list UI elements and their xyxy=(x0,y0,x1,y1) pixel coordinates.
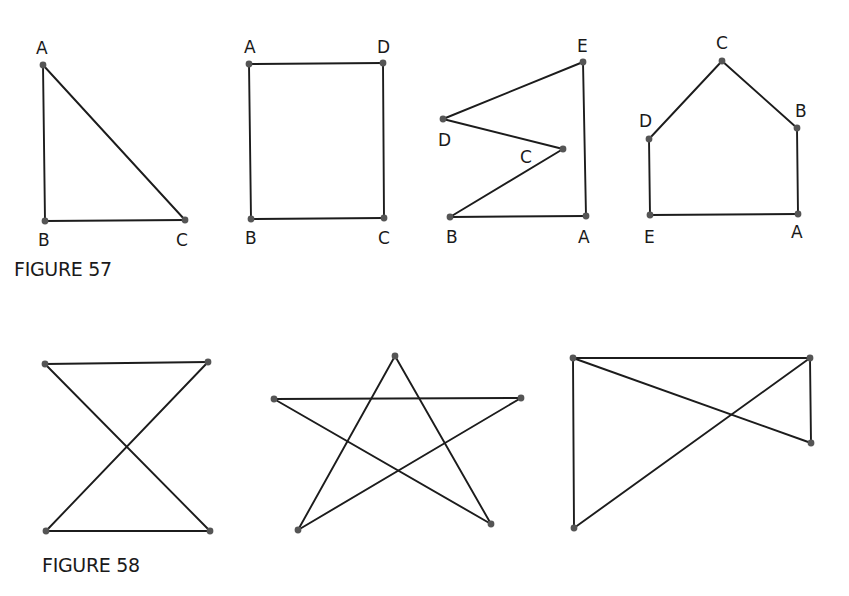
vertex-C xyxy=(182,217,189,224)
vertex-C xyxy=(719,58,726,65)
vertex-label-D: D xyxy=(438,130,451,150)
figure-figure-57: ABCADBCEDCBACBDEAFIGURE 57 xyxy=(14,33,807,280)
vertex-top xyxy=(392,353,399,360)
edge-top-bl xyxy=(298,356,395,530)
vertex-p3 xyxy=(43,528,50,535)
vertex-bl xyxy=(571,525,578,532)
edge-tr-bl xyxy=(574,358,810,528)
edge-D-C xyxy=(443,119,563,149)
vertex-label-C: C xyxy=(520,147,532,167)
shape-bowtie-quad xyxy=(570,355,815,532)
vertex-label-C: C xyxy=(378,228,390,248)
vertex-label-C: C xyxy=(176,230,188,250)
vertex-p2 xyxy=(205,359,212,366)
shape-zigzag-pentagon: EDCBA xyxy=(438,36,590,247)
vertex-label-D: D xyxy=(377,37,390,57)
vertex-label-A: A xyxy=(578,227,590,247)
vertex-bl xyxy=(295,527,302,534)
figure-caption: FIGURE 57 xyxy=(14,258,112,280)
vertex-tl xyxy=(570,355,577,362)
shape-hourglass xyxy=(42,359,214,535)
edge-C-B xyxy=(251,218,384,219)
vertex-r xyxy=(808,440,815,447)
edge-D-C xyxy=(649,61,722,139)
vertex-D xyxy=(380,60,387,67)
vertex-label-A: A xyxy=(791,222,803,242)
figure-caption: FIGURE 58 xyxy=(42,554,140,576)
edge-A-D xyxy=(249,63,383,64)
vertex-B xyxy=(794,125,801,132)
vertex-label-A: A xyxy=(36,38,48,58)
vertex-label-A: A xyxy=(244,37,256,57)
edge-C-B xyxy=(450,149,563,217)
edge-B-A xyxy=(249,64,251,219)
edge-A-B xyxy=(43,65,45,221)
vertex-label-E: E xyxy=(644,227,655,247)
vertex-label-D: D xyxy=(639,111,652,131)
figure-figure-58: FIGURE 58 xyxy=(42,353,815,576)
vertex-label-E: E xyxy=(577,36,588,56)
edge-B-C xyxy=(45,220,185,221)
vertex-label-B: B xyxy=(446,227,458,247)
vertex-D xyxy=(440,116,447,123)
edge-bl-right xyxy=(298,398,521,530)
vertex-p1 xyxy=(42,361,49,368)
edge-E-D xyxy=(649,139,650,215)
vertex-right xyxy=(518,395,525,402)
edge-left-br xyxy=(274,399,491,524)
shape-star xyxy=(271,353,525,534)
vertex-label-B: B xyxy=(795,101,807,121)
edge-E-D xyxy=(443,62,583,119)
edge-tl-r xyxy=(573,358,811,443)
vertex-tr xyxy=(807,355,814,362)
edge-r-tr xyxy=(810,358,811,443)
edge-D-C xyxy=(383,63,384,218)
vertex-A xyxy=(40,62,47,69)
edge-right-left xyxy=(274,398,521,399)
vertex-B xyxy=(248,216,255,223)
shape-triangle: ABC xyxy=(36,38,188,250)
shape-rectangle: ADBC xyxy=(244,37,390,248)
vertex-A xyxy=(795,211,802,218)
vertex-p4 xyxy=(207,528,214,535)
vertex-C xyxy=(560,146,567,153)
vertex-E xyxy=(580,59,587,66)
edge-B-A xyxy=(450,216,586,217)
vertex-br xyxy=(488,521,495,528)
figure-canvas: ABCADBCEDCBACBDEAFIGURE 57FIGURE 58 xyxy=(0,0,849,596)
edge-p1-p2 xyxy=(45,362,208,364)
vertex-A xyxy=(246,61,253,68)
edge-br-top xyxy=(395,356,491,524)
edge-A-E xyxy=(583,62,586,216)
edge-B-A xyxy=(797,128,798,214)
vertex-A xyxy=(583,213,590,220)
vertex-label-B: B xyxy=(38,230,50,250)
edge-C-A xyxy=(43,65,185,220)
vertex-B xyxy=(42,218,49,225)
edge-A-E xyxy=(650,214,798,215)
vertex-label-B: B xyxy=(245,228,257,248)
shape-house-pentagon: CBDEA xyxy=(639,33,807,247)
vertex-C xyxy=(381,215,388,222)
edge-bl-tl xyxy=(573,358,574,528)
vertex-E xyxy=(647,212,654,219)
vertex-label-C: C xyxy=(716,33,728,53)
vertex-D xyxy=(646,136,653,143)
vertex-B xyxy=(447,214,454,221)
edge-C-B xyxy=(722,61,797,128)
vertex-left xyxy=(271,396,278,403)
